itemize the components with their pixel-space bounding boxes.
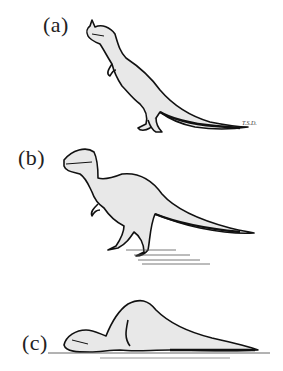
dinosaur-c-icon — [48, 301, 270, 358]
dinosaur-illustrations — [0, 0, 283, 371]
dinosaur-b-icon — [64, 149, 254, 264]
dinosaur-a-icon — [87, 20, 248, 132]
